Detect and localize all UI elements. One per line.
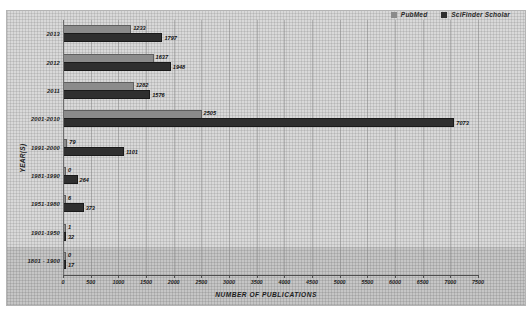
- x-axis-tick: [367, 275, 368, 278]
- legend-item-label: PubMed: [401, 11, 427, 18]
- gridline: [478, 20, 479, 275]
- x-axis-tick-label: 5500: [361, 279, 373, 285]
- bar-group: 25057073: [63, 110, 478, 128]
- legend-item-pubmed[interactable]: PubMed: [391, 11, 427, 18]
- x-axis-tick-label: 6500: [417, 279, 429, 285]
- bar-value-label: 7073: [454, 119, 468, 128]
- legend-swatch-icon: [391, 12, 397, 18]
- legend-item-label: SciFinder Scholar: [451, 11, 510, 18]
- bar-scifinder-scholar[interactable]: [63, 175, 78, 184]
- x-axis-tick-label: 2000: [168, 279, 180, 285]
- x-axis-tick: [478, 275, 479, 278]
- category-label: 1951-1980: [14, 201, 60, 207]
- bar-value-label: 1282: [134, 81, 148, 90]
- x-axis-tick: [312, 275, 313, 278]
- x-axis-tick-label: 6000: [389, 279, 401, 285]
- x-axis-tick: [257, 275, 258, 278]
- y-axis-line: [63, 20, 64, 275]
- x-axis-tick-label: 7500: [472, 279, 484, 285]
- bar-scifinder-scholar[interactable]: [63, 203, 84, 212]
- x-axis-tick: [174, 275, 175, 278]
- bar-value-label: 2505: [202, 109, 216, 118]
- bar-group: 017: [63, 252, 478, 270]
- y-axis-category-labels: 2013201220112001-20101991-20001981-19901…: [14, 20, 60, 275]
- x-axis-tick: [146, 275, 147, 278]
- bar-value-label: 79: [67, 138, 75, 147]
- x-axis-tick: [284, 275, 285, 278]
- category-label: 1981-1990: [14, 173, 60, 179]
- x-axis-tick-label: 0: [62, 279, 65, 285]
- x-axis-tick: [91, 275, 92, 278]
- x-axis-tick: [63, 275, 64, 278]
- x-axis-tick: [229, 275, 230, 278]
- x-axis-tick-label: 1500: [140, 279, 152, 285]
- x-axis-tick-label: 3500: [251, 279, 263, 285]
- x-axis-tick-label: 4500: [306, 279, 318, 285]
- bar-group: 12331797: [63, 25, 478, 43]
- category-label: 2012: [14, 60, 60, 66]
- bar-value-label: 1: [66, 223, 71, 232]
- bar-scifinder-scholar[interactable]: [63, 147, 124, 156]
- category-label: 1901-1950: [14, 230, 60, 236]
- bar-group: 16371948: [63, 54, 478, 72]
- bar-group: 0264: [63, 167, 478, 185]
- x-axis-tick-label: 4000: [278, 279, 290, 285]
- bar-value-label: 373: [84, 204, 95, 213]
- x-axis-tick-label: 500: [86, 279, 95, 285]
- chart-legend: PubMedSciFinder Scholar: [391, 11, 510, 18]
- x-axis: 0500100015002000250030003500400045005000…: [63, 275, 478, 276]
- x-axis-tick: [340, 275, 341, 278]
- publications-bar-chart: PubMedSciFinder Scholar YEAR(S) 20132012…: [0, 0, 532, 315]
- bar-scifinder-scholar[interactable]: [63, 33, 162, 42]
- category-label: 2013: [14, 31, 60, 37]
- x-axis-tick: [450, 275, 451, 278]
- bar-value-label: 1101: [124, 148, 138, 157]
- x-axis-title: NUMBER OF PUBLICATIONS: [0, 291, 532, 298]
- category-label: 1801 - 1900: [14, 258, 60, 264]
- x-axis-tick-label: 5000: [334, 279, 346, 285]
- bar-scifinder-scholar[interactable]: [63, 118, 454, 127]
- category-label: 2001-2010: [14, 116, 60, 122]
- bar-group: 12821576: [63, 82, 478, 100]
- bar-scifinder-scholar[interactable]: [63, 62, 171, 71]
- bar-value-label: 1576: [150, 91, 164, 100]
- bar-group: 132: [63, 224, 478, 242]
- x-axis-tick-label: 7000: [444, 279, 456, 285]
- bar-group: 791101: [63, 139, 478, 157]
- x-axis-tick: [423, 275, 424, 278]
- bar-value-label: 17: [66, 261, 74, 270]
- x-axis-tick-label: 2500: [195, 279, 207, 285]
- category-label: 1991-2000: [14, 145, 60, 151]
- bar-value-label: 0: [66, 166, 71, 175]
- bar-value-label: 1948: [171, 63, 185, 72]
- x-axis-tick-label: 3000: [223, 279, 235, 285]
- x-axis-tick-label: 1000: [112, 279, 124, 285]
- bar-value-label: 1233: [131, 24, 145, 33]
- bar-value-label: 32: [66, 233, 74, 242]
- bar-value-label: 1637: [154, 53, 168, 62]
- bar-value-label: 264: [78, 176, 89, 185]
- x-axis-tick: [118, 275, 119, 278]
- bar-value-label: 1797: [162, 34, 176, 43]
- x-axis-tick: [395, 275, 396, 278]
- bar-group: 6373: [63, 195, 478, 213]
- bar-scifinder-scholar[interactable]: [63, 90, 150, 99]
- x-axis-tick: [201, 275, 202, 278]
- chart-plot-area: 1233179716371948128215762505707379110102…: [63, 20, 478, 275]
- legend-item-scifinder-scholar[interactable]: SciFinder Scholar: [441, 11, 510, 18]
- legend-swatch-icon: [441, 12, 447, 18]
- bar-value-label: 6: [66, 194, 71, 203]
- category-label: 2011: [14, 88, 60, 94]
- bar-value-label: 0: [66, 251, 71, 260]
